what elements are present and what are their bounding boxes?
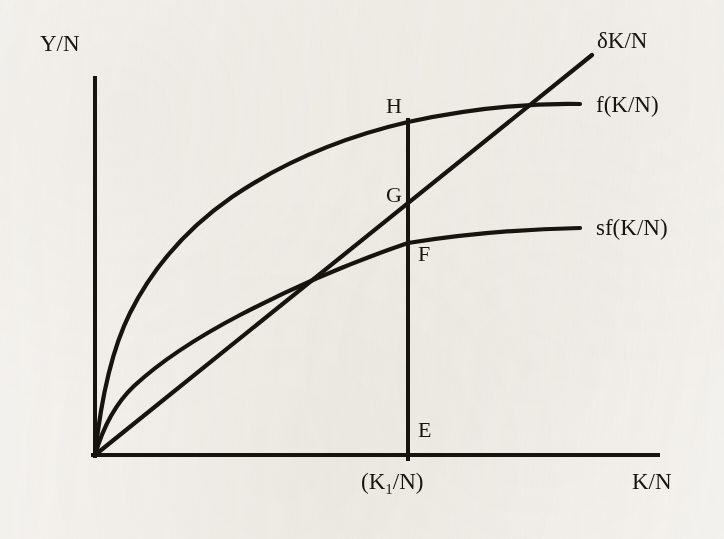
- point-label-g: G: [386, 184, 402, 206]
- k1-paren-open: (K: [361, 469, 385, 494]
- production-function-label: f(K/N): [596, 93, 659, 116]
- saving-function-label: sf(K/N): [596, 216, 668, 239]
- k1-paren-close: /N): [393, 469, 424, 494]
- point-label-h: H: [386, 95, 402, 117]
- solow-growth-diagram: Y/N K/N δK/N f(K/N) sf(K/N) H G F E (K1/…: [0, 0, 724, 539]
- diagram-canvas: [0, 0, 724, 539]
- production-function-curve: [95, 104, 580, 455]
- y-axis-label: Y/N: [40, 32, 80, 55]
- point-label-e: E: [418, 419, 431, 441]
- x-axis-label: K/N: [632, 470, 672, 493]
- k1-over-n-tick-label: (K1/N): [361, 470, 423, 493]
- k1-subscript: 1: [385, 481, 393, 497]
- point-label-f: F: [418, 243, 430, 265]
- depreciation-line-label: δK/N: [597, 29, 647, 52]
